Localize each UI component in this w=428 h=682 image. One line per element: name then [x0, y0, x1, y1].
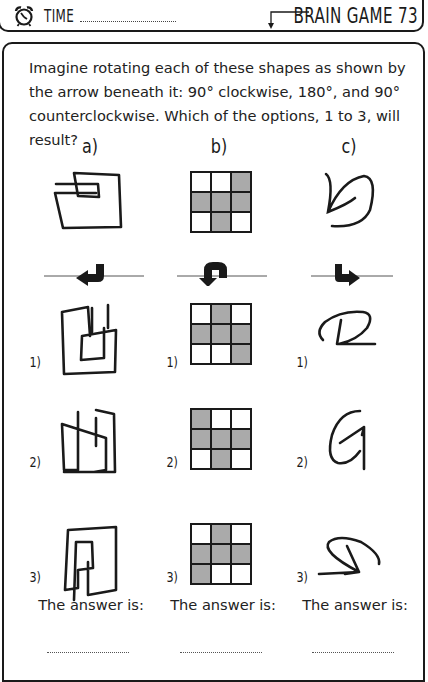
option-label-b2: 2) — [166, 454, 178, 470]
option-label-c1: 1) — [296, 354, 308, 370]
option-label-c2: 2) — [296, 454, 308, 470]
option-label-a2: 2) — [29, 454, 41, 470]
shape-a-original — [52, 170, 127, 236]
u-turn-arrow-icon — [177, 258, 267, 288]
answer-input-c[interactable] — [312, 652, 394, 653]
answer-label-b: The answer is: — [163, 596, 283, 613]
rotate-left-arrow-icon — [44, 262, 144, 286]
column-label-c: c) — [337, 134, 361, 158]
turn-right-arrow-icon — [311, 262, 393, 286]
option-label-c3: 3) — [296, 569, 308, 585]
shape-c-original — [320, 170, 380, 236]
answer-label-a: The answer is: — [31, 596, 151, 613]
option-c3-shape[interactable] — [315, 532, 387, 588]
column-label-b: b) — [207, 134, 231, 158]
option-a3-shape[interactable] — [58, 520, 123, 606]
option-label-a3: 3) — [29, 569, 41, 585]
option-label-b3: 3) — [166, 569, 178, 585]
page-title: BRAIN GAME 73 — [293, 4, 418, 28]
answer-input-b[interactable] — [180, 652, 262, 653]
option-b3-grid[interactable] — [190, 523, 252, 585]
alarm-clock-icon — [13, 5, 35, 27]
answer-input-a[interactable] — [47, 652, 129, 653]
option-a1-shape[interactable] — [58, 300, 123, 378]
option-c1-shape[interactable] — [313, 308, 385, 358]
option-b2-grid[interactable] — [190, 408, 252, 470]
option-label-b1: 1) — [166, 354, 178, 370]
time-label: TIME — [44, 6, 74, 26]
time-entry-line[interactable] — [80, 21, 176, 22]
option-label-a1: 1) — [29, 354, 41, 370]
answer-label-c: The answer is: — [295, 596, 415, 613]
shape-b-original — [190, 171, 252, 233]
option-b1-grid[interactable] — [190, 303, 252, 365]
column-label-a: a) — [78, 134, 102, 158]
option-a2-shape[interactable] — [58, 406, 123, 484]
option-c2-shape[interactable] — [320, 405, 380, 471]
